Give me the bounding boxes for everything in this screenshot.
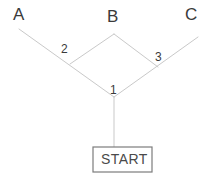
edge-node1-to-c [114, 37, 198, 97]
node-label-2: 2 [61, 43, 68, 55]
edge-node1-to-a [19, 29, 114, 97]
terminal-label-c: C [185, 6, 197, 23]
node-label-3: 3 [155, 51, 162, 63]
terminal-label-b: B [107, 8, 119, 25]
edge-node2-to-b [70, 34, 114, 64]
diagram-canvas: A B C 1 2 3 START [0, 0, 212, 174]
terminal-label-a: A [13, 6, 25, 23]
node-label-1: 1 [110, 84, 117, 96]
edge-node3-to-b [114, 34, 158, 67]
start-box-label[interactable]: START [101, 152, 148, 166]
diagram-edges-layer [0, 0, 212, 174]
